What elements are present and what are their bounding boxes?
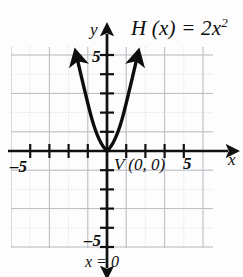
y-tick-label-5: 5	[92, 48, 101, 65]
vertex-label: V (0, 0)	[114, 156, 165, 173]
equation-exponent: 2	[221, 15, 228, 30]
axis-of-symmetry-label: x = 0	[85, 254, 119, 270]
y-tick-label-minus-5: –5	[84, 232, 101, 249]
equation-label: H (x) = 2x2	[131, 16, 228, 39]
graph-figure: y H (x) = 2x2 x 5 –5 –5 5 V (0, 0) x = 0	[0, 0, 243, 277]
x-axis-label: x	[228, 151, 236, 168]
x-tick-label-5: 5	[183, 155, 192, 172]
coordinate-plane	[0, 0, 243, 277]
y-axis-label: y	[90, 21, 98, 38]
equation-text: H (x) = 2x	[131, 16, 221, 40]
x-tick-label-minus-5: –5	[10, 158, 27, 175]
